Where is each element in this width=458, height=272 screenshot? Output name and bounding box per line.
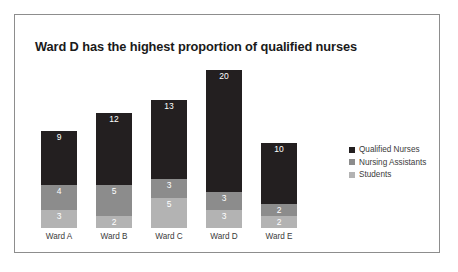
- bar-segment[interactable]: 9: [41, 131, 77, 186]
- legend-swatch-icon: [349, 147, 355, 153]
- bar-value-label: 3: [222, 192, 227, 203]
- chart-legend: Qualified NursesNursing AssistantsStuden…: [349, 145, 445, 183]
- bar-value-label: 5: [167, 198, 172, 209]
- bar-stack: 1335: [151, 100, 187, 228]
- legend-swatch-icon: [349, 172, 355, 178]
- bar-segment[interactable]: 2: [261, 216, 297, 228]
- bar-value-label: 5: [112, 185, 117, 196]
- x-axis-tick-label: Ward E: [251, 232, 307, 241]
- x-axis-tick-label: Ward C: [141, 232, 197, 241]
- bar-segment[interactable]: 20: [206, 70, 242, 192]
- bar-value-label: 9: [57, 131, 62, 142]
- legend-item[interactable]: Students: [349, 170, 445, 179]
- bar-segment[interactable]: 3: [206, 210, 242, 228]
- x-axis-tick-label: Ward D: [196, 232, 252, 241]
- x-axis-tick-label: Ward A: [31, 232, 87, 241]
- bar-stack: 1022: [261, 143, 297, 228]
- bar-stack: 2033: [206, 70, 242, 228]
- bar-value-label: 13: [164, 100, 173, 111]
- bar-value-label: 2: [277, 216, 282, 227]
- chart-title: Ward D has the highest proportion of qua…: [35, 39, 357, 54]
- bar-value-label: 3: [222, 210, 227, 221]
- legend-item[interactable]: Nursing Assistants: [349, 158, 445, 167]
- bar-segment[interactable]: 2: [261, 204, 297, 216]
- bar-value-label: 3: [57, 210, 62, 221]
- legend-item[interactable]: Qualified Nurses: [349, 145, 445, 154]
- chart-card: Ward D has the highest proportion of qua…: [14, 14, 440, 253]
- bar-segment[interactable]: 13: [151, 100, 187, 179]
- bar-value-label: 2: [112, 216, 117, 227]
- bar-segment[interactable]: 4: [41, 185, 77, 209]
- x-axis-tick-label: Ward B: [86, 232, 142, 241]
- bar-segment[interactable]: 12: [96, 113, 132, 186]
- legend-label: Qualified Nurses: [359, 145, 420, 154]
- bar-segment[interactable]: 10: [261, 143, 297, 204]
- bar-segment[interactable]: 2: [96, 216, 132, 228]
- bar-stack: 943: [41, 131, 77, 228]
- bar-segment[interactable]: 3: [41, 210, 77, 228]
- plot-area: 9431252133520331022: [35, 70, 335, 228]
- bar-segment[interactable]: 5: [96, 185, 132, 215]
- legend-swatch-icon: [349, 159, 355, 165]
- legend-label: Nursing Assistants: [359, 158, 426, 167]
- bar-stack: 1252: [96, 113, 132, 228]
- bar-segment[interactable]: 3: [151, 179, 187, 197]
- bar-value-label: 4: [57, 185, 62, 196]
- bar-value-label: 12: [109, 113, 118, 124]
- bar-value-label: 10: [274, 143, 283, 154]
- bar-segment[interactable]: 5: [151, 198, 187, 228]
- bar-value-label: 3: [167, 179, 172, 190]
- bar-segment[interactable]: 3: [206, 192, 242, 210]
- bar-value-label: 20: [219, 70, 228, 81]
- bar-value-label: 2: [277, 204, 282, 215]
- legend-label: Students: [359, 170, 391, 179]
- x-axis-labels: Ward AWard BWard CWard DWard E: [35, 229, 335, 245]
